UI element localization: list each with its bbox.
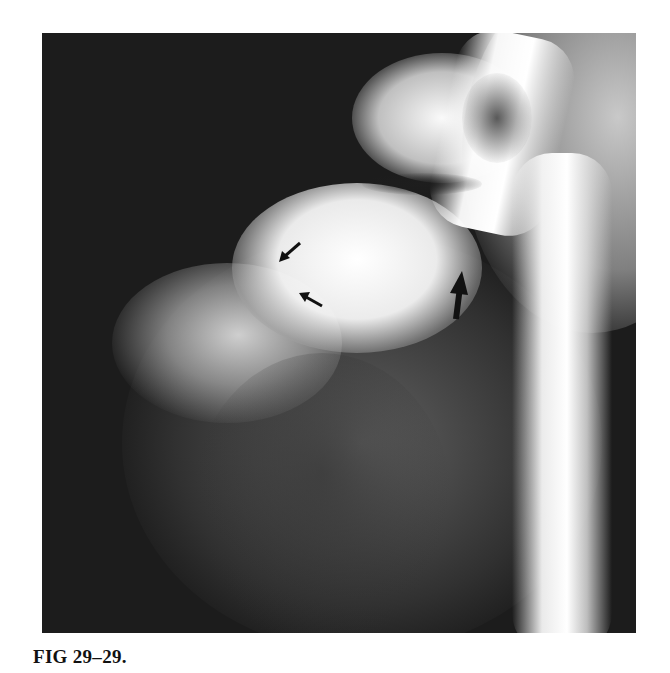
arrow-large-up-icon: [446, 271, 470, 321]
angiogram-image: [42, 33, 636, 633]
descending-aorta: [512, 153, 612, 633]
figure-caption: FIG 29–29.: [33, 646, 127, 668]
arrow-small-down-left-icon: [276, 239, 306, 265]
arrow-small-up-left-icon: [296, 288, 326, 310]
dark-band: [362, 173, 482, 195]
lower-shadow: [192, 353, 452, 633]
dark-pocket: [462, 73, 532, 163]
